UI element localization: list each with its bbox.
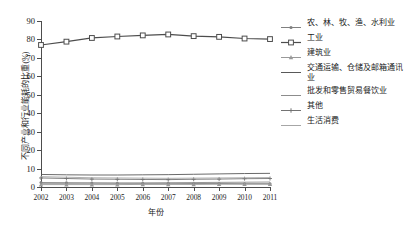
y-tick-label: 60 — [27, 71, 36, 81]
x-tick-label: 2008 — [186, 193, 201, 202]
series-3 — [41, 173, 270, 175]
x-tick-label: 2003 — [59, 193, 74, 202]
legend-label: 批发和零售贸易餐饮业 — [307, 86, 387, 96]
x-tick-label: 2011 — [263, 193, 278, 202]
y-tick-label: 0 — [31, 182, 35, 192]
plot-area: 0102030405060708090 20022003200420052006… — [41, 21, 270, 187]
legend-marker-icon — [280, 19, 302, 30]
y-tick-label: 20 — [27, 145, 36, 155]
legend-marker-icon — [280, 102, 302, 113]
x-tick — [66, 187, 67, 191]
legend-item[interactable]: 工业 — [280, 33, 405, 45]
x-tick-label: 2004 — [84, 193, 99, 202]
x-tick-label: 2006 — [135, 193, 150, 202]
legend-marker-icon — [280, 49, 302, 60]
data-point — [166, 32, 171, 37]
x-tick-label: 2005 — [110, 193, 125, 202]
x-tick — [270, 187, 271, 191]
x-tick-label: 2010 — [237, 193, 252, 202]
x-axis-line — [41, 187, 270, 188]
data-point — [89, 36, 94, 41]
legend-label: 建筑业 — [307, 48, 331, 58]
legend-marker-icon — [280, 87, 302, 98]
legend-label: 工业 — [307, 33, 323, 43]
legend-item[interactable]: 批发和零售贸易餐饮业 — [280, 86, 405, 98]
legend-item[interactable]: 生活消费 — [280, 116, 405, 128]
x-tick — [41, 187, 42, 191]
data-point — [191, 34, 196, 39]
chart-figure: 不同产业和行业能耗的比重(%) 0102030405060708090 2002… — [0, 0, 405, 233]
legend-label: 其他 — [307, 101, 323, 111]
data-point — [268, 177, 272, 181]
y-tick-label: 90 — [27, 16, 36, 26]
y-axis-title: 不同产业和行业能耗的比重(%) — [19, 26, 30, 186]
chart-legend: 农、林、牧、渔、水利业工业建筑业交通运输、仓储及邮箱通讯业批发和零售贸易餐饮业其… — [280, 18, 405, 131]
x-tick-label: 2002 — [34, 193, 49, 202]
x-tick — [194, 187, 195, 191]
series-6 — [41, 177, 270, 179]
legend-marker-icon — [280, 64, 302, 75]
x-tick — [245, 187, 246, 191]
legend-label: 农、林、牧、渔、水利业 — [307, 18, 395, 28]
series-5 — [39, 176, 272, 182]
data-point — [140, 33, 145, 38]
x-tick-label: 2009 — [212, 193, 227, 202]
y-tick-label: 30 — [27, 127, 36, 137]
legend-item[interactable]: 其他 — [280, 101, 405, 113]
data-point — [64, 39, 69, 44]
legend-marker-icon — [280, 34, 302, 45]
series-lines — [41, 21, 270, 187]
y-tick-label: 50 — [27, 90, 36, 100]
data-point — [115, 34, 120, 39]
legend-item[interactable]: 建筑业 — [280, 48, 405, 60]
x-tick — [117, 187, 118, 191]
legend-label: 生活消费 — [307, 116, 339, 126]
x-tick — [219, 187, 220, 191]
legend-item[interactable]: 交通运输、仓储及邮箱通讯业 — [280, 63, 405, 83]
x-tick — [168, 187, 169, 191]
data-point — [243, 177, 247, 181]
x-tick — [143, 187, 144, 191]
data-point — [268, 37, 273, 42]
legend-marker-icon — [280, 117, 302, 128]
legend-item[interactable]: 农、林、牧、渔、水利业 — [280, 18, 405, 30]
y-tick-label: 80 — [27, 34, 36, 44]
x-axis-title: 年份 — [41, 206, 270, 217]
x-tick-label: 2007 — [161, 193, 176, 202]
y-tick-label: 40 — [27, 108, 36, 118]
series-1 — [39, 32, 273, 47]
data-point — [39, 43, 44, 48]
x-tick — [92, 187, 93, 191]
y-tick-label: 10 — [27, 164, 36, 174]
y-tick-label: 70 — [27, 53, 36, 63]
legend-label: 交通运输、仓储及邮箱通讯业 — [307, 63, 405, 83]
data-point — [217, 34, 222, 39]
data-point — [242, 36, 247, 41]
